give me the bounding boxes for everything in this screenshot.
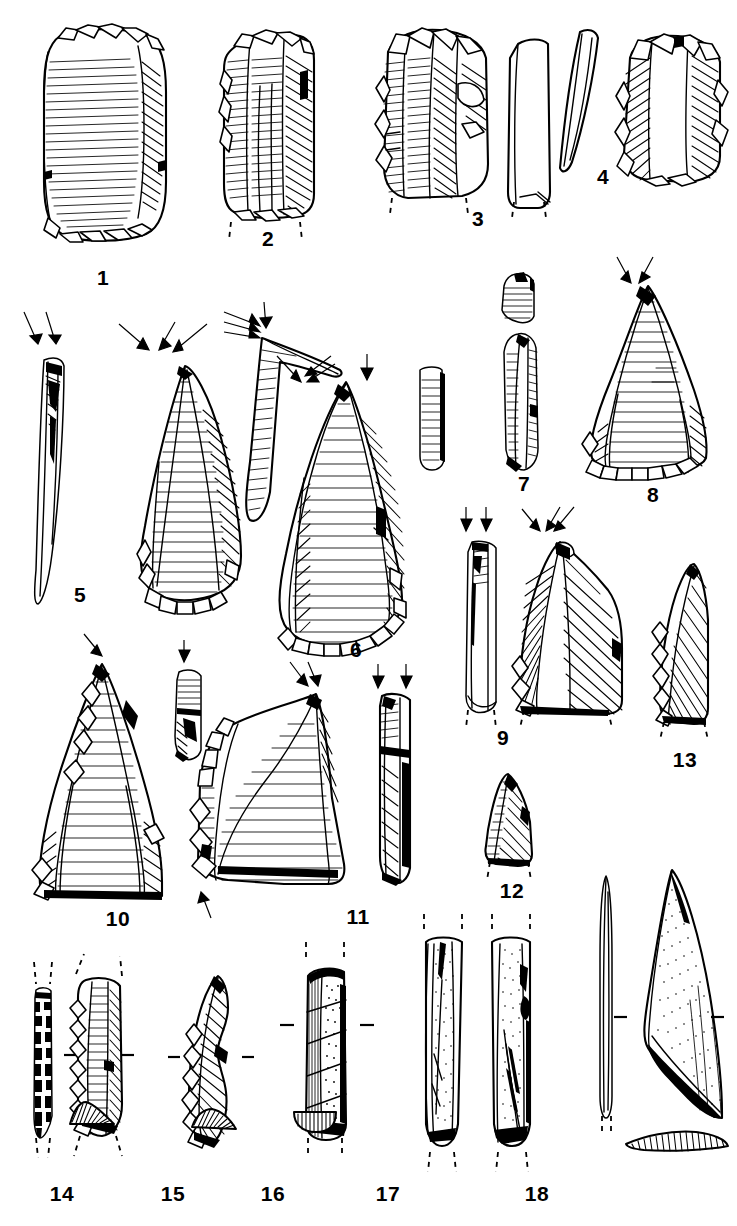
figure-7-upper-fragment [494,270,556,330]
figure-5-arrows-2 [115,320,230,365]
figure-4-main-view [612,28,730,188]
figure-16-tick-marks [280,1018,376,1032]
figure-1-number: 1 [97,267,109,288]
figure-16-scale-ticks [280,1018,376,1032]
figure-15-section [186,1107,242,1135]
figure-11-main-view [188,688,363,898]
figure-6-main-view [254,378,434,653]
figure-16-break-top [296,940,356,966]
figure-7-number: 7 [518,473,530,494]
figure-10-profile-arrow-svg [166,638,206,668]
figure-2 [216,26,326,226]
figure-3-number: 3 [472,208,484,229]
figure-12 [478,770,548,870]
arrow-down-icon [290,662,321,686]
figure-18-cross-section [622,1128,732,1154]
figure-6-main [254,378,434,653]
figure-17-right-view [480,934,542,1156]
artifact-plate: 1 [0,0,737,1226]
figure-6-butt-profile [410,362,456,477]
figure-5-arrows [18,310,98,360]
figure-10-profile-arrow [166,638,206,668]
figure-5-point-view [115,320,230,365]
figure-7-lower-profile [494,330,556,475]
figure-1-main-view [30,22,180,247]
figure-17-left-break-top [412,912,474,936]
figure-5 [18,310,98,360]
figure-9-main [512,538,628,728]
figure-14-break-bottom [64,1134,132,1160]
arrow-down-icon [84,634,102,656]
figure-18-profile-break-dashes [592,1114,620,1138]
figure-3 [372,24,497,204]
figure-11-lower-arrow [195,888,225,920]
figure-4 [558,24,606,179]
figure-5-number: 5 [74,584,86,605]
figure-9-arrows-left [458,505,508,541]
figure-9-profile-view [458,538,506,728]
arrow-down-icon [24,312,61,344]
figure-3-profile-view [498,32,558,214]
arrow-down-icon [461,507,492,531]
figure-18-scale-ticks [614,1010,726,1024]
figure-13 [650,560,720,735]
figure-9-break-dashes [512,708,628,732]
figure-9-profile [458,538,506,728]
figure-10-number: 10 [106,908,130,929]
figure-2-number: 2 [262,228,274,249]
arrow-down-icon [522,507,574,531]
figure-14 [64,952,132,978]
figure-6-number: 6 [350,639,362,660]
figure-11-lower-arrow-svg [195,888,225,920]
figure-14-number: 14 [50,1183,74,1204]
figure-18 [628,866,728,1132]
figure-3-profile-break-dashes [498,202,558,224]
figure-9-arrows-right [520,505,590,541]
figure-18-profile-view [592,872,620,1132]
figure-12-main-view [478,770,548,870]
figure-16-cross-section [288,1108,344,1136]
figure-14-section [60,1100,120,1130]
figure-16 [296,940,356,966]
figure-8-number: 8 [647,484,659,505]
figure-3-main-view [372,24,497,204]
figure-14-profile-break-bottom [26,1136,60,1162]
figure-14-profile [26,960,60,988]
figure-14-tick-marks [64,1048,136,1062]
figure-14-profile-break-top [26,960,60,988]
figure-9-arrows-1 [458,505,508,541]
figure-14-scale-ticks [64,1048,136,1062]
figure-16-section [288,1108,344,1136]
figure-7 [494,270,556,330]
figure-17-number: 17 [376,1183,400,1204]
figure-13-number: 13 [673,749,697,770]
figure-11 [188,688,363,898]
figure-18-section [622,1128,732,1154]
figure-4-number: 4 [597,166,609,187]
figure-17-right [480,912,542,936]
figure-9-number: 9 [497,727,509,748]
figure-17-left-view [412,934,474,1156]
figure-8 [582,282,714,480]
figure-17-right-break-bottom [480,1150,542,1176]
figure-2-main-view [216,26,326,226]
figure-9-main-view [512,538,628,728]
figure-10-main-view [30,660,172,905]
figure-15-cross-section [186,1107,242,1135]
figure-11-number: 11 [346,906,369,927]
arrow-down-icon [119,322,207,352]
figure-17-left [412,912,474,936]
figure-14-profile-view [26,986,60,1146]
figure-17-right-break-top [480,912,542,936]
figure-15-tick-marks [168,1050,256,1064]
arrow-down-icon [617,257,653,283]
arrow-down-icon [179,640,190,662]
figure-11-profile-view [368,690,422,890]
figure-8-main-view [582,282,714,480]
figure-5-profile-view [26,354,86,614]
figure-4-profile-view [558,24,606,179]
arrow-up-icon [198,892,211,918]
figure-18-tick-marks [614,1010,726,1024]
figure-13-main-view [650,560,720,735]
arrow-down-icon [373,664,412,688]
